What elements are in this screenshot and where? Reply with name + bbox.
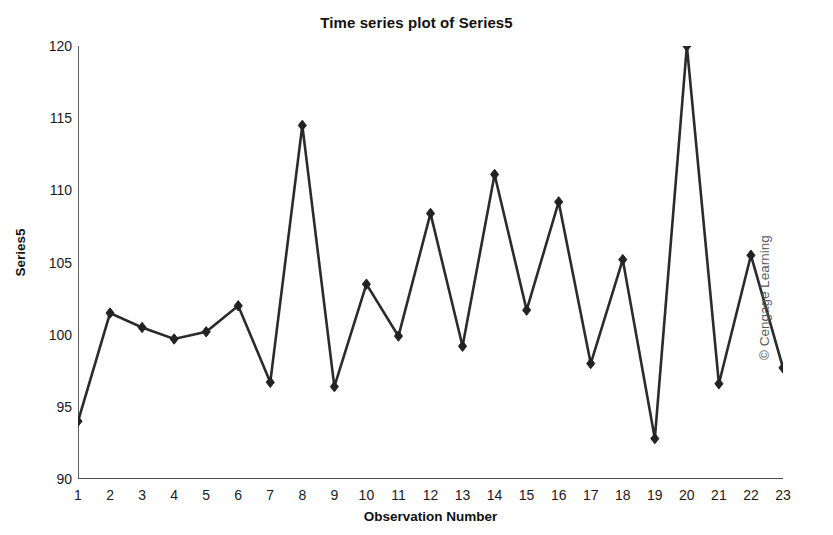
data-point-marker [587,358,595,368]
y-axis-tick-label: 105 [38,255,72,271]
data-point-marker [555,197,563,207]
y-axis-label: Series5 [13,213,28,293]
data-point-marker [426,208,434,218]
copyright-credit: © Cengage Learning [757,190,772,360]
y-axis-tick-label: 110 [38,182,72,198]
plot-area [78,46,783,479]
data-point-marker [523,305,531,315]
data-point-marker [619,254,627,264]
data-point-marker [330,381,338,391]
y-axis-tick-label: 120 [38,38,72,54]
data-point-marker [491,169,499,179]
x-axis-label: Observation Number [78,509,783,524]
x-axis-tick-labels: 1234567891011121314151617181920212223 [78,487,783,507]
chart-figure: Time series plot of Series5 Series5 9095… [0,0,833,535]
data-point-marker [683,46,691,51]
data-point-marker [715,379,723,389]
data-series-group [78,46,783,439]
data-point-marker [458,341,466,351]
data-point-marker [298,120,306,130]
chart-title: Time series plot of Series5 [0,14,833,31]
y-axis-tick-label: 100 [38,327,72,343]
data-point-markers [78,46,783,444]
data-point-marker [138,322,146,332]
data-point-marker [170,334,178,344]
y-axis-tick-label: 95 [38,399,72,415]
data-point-marker [651,433,659,443]
y-axis-tick-labels: 9095100105110115120 [36,46,72,479]
y-axis-tick-label: 115 [38,110,72,126]
x-axis-tick-label: 23 [763,487,803,503]
data-point-marker [106,308,114,318]
axes-group [78,46,783,479]
data-point-marker [747,250,755,260]
line-chart-svg [78,46,783,479]
y-axis-tick-label: 90 [38,471,72,487]
series-line [78,46,783,439]
